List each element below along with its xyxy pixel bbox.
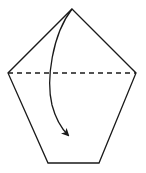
diagram-canvas bbox=[0, 0, 146, 173]
pentagon-paper-outline bbox=[8, 9, 136, 163]
origami-fold-diagram bbox=[0, 0, 146, 173]
